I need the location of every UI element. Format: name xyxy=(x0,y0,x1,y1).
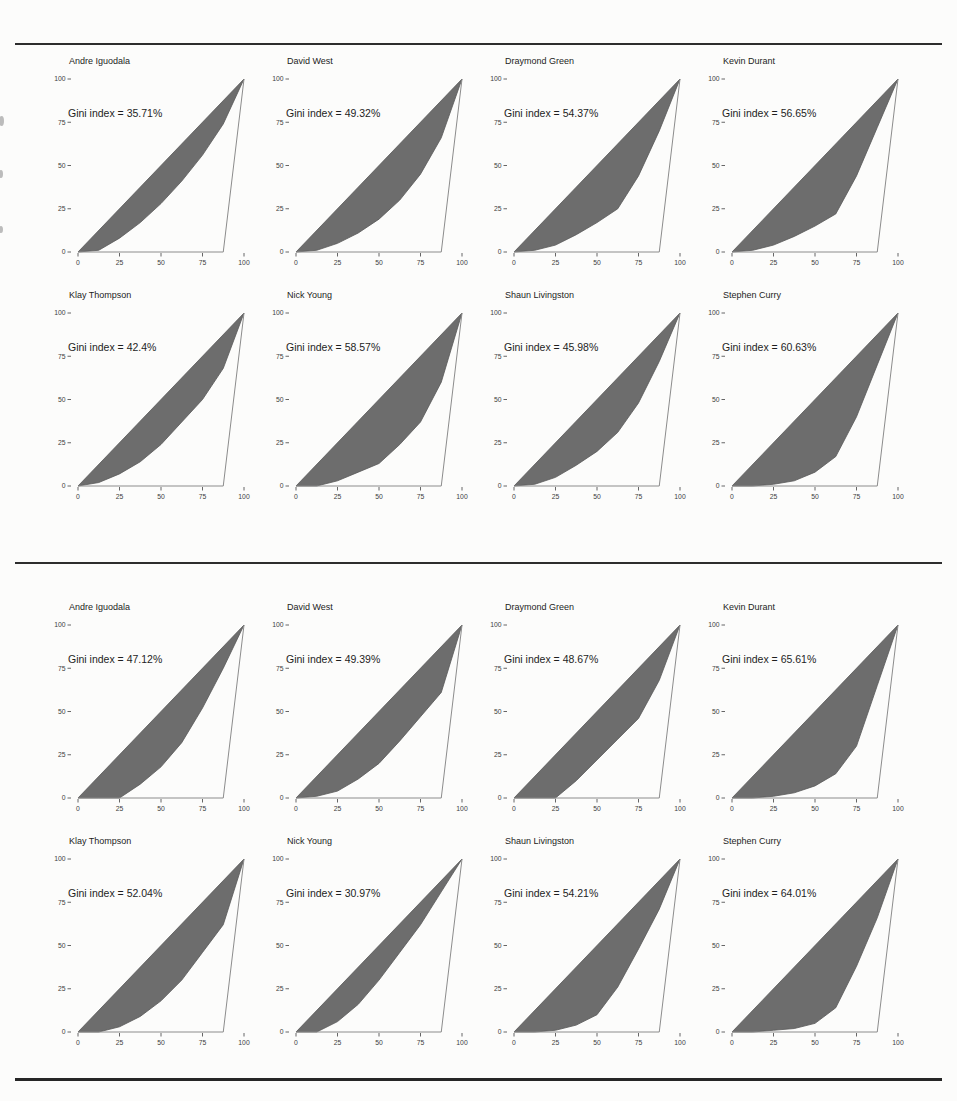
x-axis-tick-label: 100 xyxy=(892,493,904,500)
lorenz-area xyxy=(732,313,898,486)
y-axis-tick-label: 25 xyxy=(494,439,502,446)
gini-index-annotation: Gini index = 35.71% xyxy=(68,107,162,119)
x-axis-tick-label: 100 xyxy=(456,259,468,266)
y-axis-tick-label: 25 xyxy=(494,751,502,758)
x-axis-tick-label: 75 xyxy=(635,805,643,812)
y-axis-tick-label: 100 xyxy=(272,309,284,316)
x-axis-tick-label: 100 xyxy=(892,259,904,266)
lorenz-area xyxy=(78,313,244,486)
x-axis-tick-label: 75 xyxy=(853,805,861,812)
lorenz-area xyxy=(514,313,680,486)
y-axis-tick-label: 0 xyxy=(716,248,720,255)
scan-speck xyxy=(0,226,3,233)
lorenz-area xyxy=(514,625,680,798)
lorenz-area xyxy=(732,79,898,252)
x-axis-tick-label: 50 xyxy=(593,805,601,812)
y-axis-tick-label: 25 xyxy=(712,439,720,446)
y-axis-tick-label: 50 xyxy=(58,708,66,715)
x-axis-tick-label: 100 xyxy=(238,1039,250,1046)
y-axis-tick-label: 100 xyxy=(708,621,720,628)
x-axis-tick-label: 100 xyxy=(238,259,250,266)
plot-title: Draymond Green xyxy=(505,56,574,66)
x-axis-tick-label: 25 xyxy=(334,805,342,812)
plot-title: Nick Young xyxy=(287,290,332,300)
y-axis-tick-label: 75 xyxy=(58,353,66,360)
x-axis-tick-label: 75 xyxy=(199,1039,207,1046)
x-axis-tick-label: 50 xyxy=(157,493,165,500)
plot-title: Shaun Livingston xyxy=(505,836,574,846)
y-axis-tick-label: 25 xyxy=(58,439,66,446)
plot-title: Nick Young xyxy=(287,836,332,846)
plot-title: Kevin Durant xyxy=(723,56,776,66)
x-axis-tick-label: 100 xyxy=(674,493,686,500)
y-axis-tick-label: 75 xyxy=(712,899,720,906)
y-axis-tick-label: 25 xyxy=(58,751,66,758)
y-axis-tick-label: 100 xyxy=(708,855,720,862)
gini-index-annotation: Gini index = 54.21% xyxy=(504,887,598,899)
y-axis-tick-label: 0 xyxy=(498,248,502,255)
lorenz-plot-draymond-green: Draymond Green02550751000255075100Gini i… xyxy=(482,591,700,825)
y-axis-tick-label: 25 xyxy=(276,439,284,446)
plot-title: Kevin Durant xyxy=(723,602,776,612)
lorenz-plot-svg: Shaun Livingston02550751000255075100Gini… xyxy=(482,825,700,1059)
x-axis-tick-label: 25 xyxy=(770,805,778,812)
x-axis-tick-label: 50 xyxy=(157,1039,165,1046)
x-axis-tick-label: 75 xyxy=(853,1039,861,1046)
y-axis-tick-label: 0 xyxy=(716,482,720,489)
x-axis-tick-label: 0 xyxy=(76,805,80,812)
gini-index-annotation: Gini index = 54.37% xyxy=(504,107,598,119)
y-axis-tick-label: 75 xyxy=(494,665,502,672)
x-axis-tick-label: 25 xyxy=(334,1039,342,1046)
plot-title: Klay Thompson xyxy=(69,290,131,300)
lorenz-plot-svg: Draymond Green02550751000255075100Gini i… xyxy=(482,45,700,279)
y-axis-tick-label: 100 xyxy=(490,309,502,316)
y-axis-tick-label: 0 xyxy=(498,1028,502,1035)
y-axis-tick-label: 25 xyxy=(58,205,66,212)
x-axis-tick-label: 50 xyxy=(157,805,165,812)
x-axis-tick-label: 100 xyxy=(674,259,686,266)
x-axis-tick-label: 100 xyxy=(892,1039,904,1046)
y-axis-tick-label: 100 xyxy=(54,855,66,862)
lorenz-figure-top: Andre Iguodala02550751000255075100Gini i… xyxy=(46,45,918,513)
lorenz-area xyxy=(732,625,898,798)
x-axis-tick-label: 50 xyxy=(375,805,383,812)
lorenz-plot-david-west: David West02550751000255075100Gini index… xyxy=(264,591,482,825)
x-axis-tick-label: 0 xyxy=(512,259,516,266)
x-axis-tick-label: 75 xyxy=(417,1039,425,1046)
lorenz-plot-svg: Klay Thompson02550751000255075100Gini in… xyxy=(46,279,264,513)
y-axis-tick-label: 50 xyxy=(276,396,284,403)
x-axis-tick-label: 0 xyxy=(294,805,298,812)
plot-title: Stephen Curry xyxy=(723,290,782,300)
x-axis-tick-label: 0 xyxy=(76,493,80,500)
lorenz-area xyxy=(78,859,244,1032)
lorenz-plot-andre-iguodala: Andre Iguodala02550751000255075100Gini i… xyxy=(46,591,264,825)
lorenz-plot-svg: David West02550751000255075100Gini index… xyxy=(264,45,482,279)
x-axis-tick-label: 100 xyxy=(456,493,468,500)
plot-title: Draymond Green xyxy=(505,602,574,612)
y-axis-tick-label: 75 xyxy=(58,665,66,672)
lorenz-plot-nick-young: Nick Young02550751000255075100Gini index… xyxy=(264,279,482,513)
y-axis-tick-label: 50 xyxy=(276,942,284,949)
y-axis-tick-label: 100 xyxy=(54,75,66,82)
y-axis-tick-label: 100 xyxy=(708,309,720,316)
x-axis-tick-label: 0 xyxy=(512,493,516,500)
x-axis-tick-label: 100 xyxy=(456,1039,468,1046)
lorenz-plot-svg: Stephen Curry02550751000255075100Gini in… xyxy=(700,825,918,1059)
y-axis-tick-label: 0 xyxy=(62,794,66,801)
x-axis-tick-label: 0 xyxy=(512,805,516,812)
x-axis-tick-label: 100 xyxy=(892,805,904,812)
lorenz-plot-svg: Andre Iguodala02550751000255075100Gini i… xyxy=(46,45,264,279)
x-axis-tick-label: 25 xyxy=(116,493,124,500)
y-axis-tick-label: 50 xyxy=(276,162,284,169)
lorenz-plot-shaun-livingston: Shaun Livingston02550751000255075100Gini… xyxy=(482,279,700,513)
scan-speck xyxy=(0,116,4,126)
gini-index-annotation: Gini index = 45.98% xyxy=(504,341,598,353)
lorenz-plot-stephen-curry: Stephen Curry02550751000255075100Gini in… xyxy=(700,825,918,1059)
y-axis-tick-label: 100 xyxy=(54,621,66,628)
y-axis-tick-label: 100 xyxy=(708,75,720,82)
lorenz-area xyxy=(296,79,462,252)
y-axis-tick-label: 25 xyxy=(712,985,720,992)
lorenz-plot-svg: Andre Iguodala02550751000255075100Gini i… xyxy=(46,591,264,825)
x-axis-tick-label: 25 xyxy=(770,1039,778,1046)
x-axis-tick-label: 50 xyxy=(157,259,165,266)
